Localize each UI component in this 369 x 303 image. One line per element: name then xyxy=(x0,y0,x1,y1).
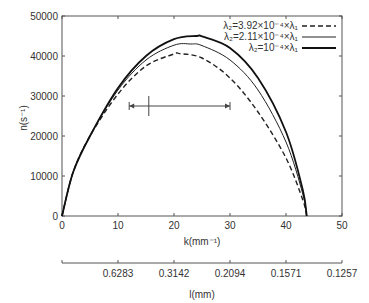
y-tick-label: 0 xyxy=(52,211,58,222)
curves xyxy=(62,35,307,216)
y-tick-label: 30000 xyxy=(30,91,58,102)
legend-entry-label: λ₂=2.11×10⁻⁴×λ₁ xyxy=(224,31,299,42)
secondary-x-tick-label: 0.2094 xyxy=(215,268,246,279)
secondary-x-tick-label: 0.1571 xyxy=(271,268,302,279)
secondary-x-tick-label: 0.1257 xyxy=(327,268,358,279)
legend-entry-label: λ₂=10⁻⁴×λ₁ xyxy=(249,42,299,53)
curve-solid-thick xyxy=(62,35,307,216)
chart: 01000020000300004000050000 01020304050 0… xyxy=(0,0,369,303)
curve-dashed xyxy=(62,53,307,216)
y-tick-label: 20000 xyxy=(30,131,58,142)
x-tick-label: 10 xyxy=(112,220,124,231)
x-tick-label: 20 xyxy=(168,220,180,231)
x-tick-label: 50 xyxy=(336,220,348,231)
x-tick-label: 30 xyxy=(224,220,236,231)
y-tick-label: 10000 xyxy=(30,171,58,182)
secondary-x-tick-label: 0.3142 xyxy=(159,268,190,279)
legend: λ₂=3.92×10⁻⁴×λ₁λ₂=2.11×10⁻⁴×λ₁λ₂=10⁻⁴×λ₁ xyxy=(223,20,336,53)
secondary-x-axis-label: l(mm) xyxy=(189,289,215,300)
y-tick-label: 40000 xyxy=(30,51,58,62)
legend-entry-label: λ₂=3.92×10⁻⁴×λ₁ xyxy=(223,20,298,31)
range-arrow-annotation xyxy=(129,96,230,116)
x-axis-label: k(mm⁻¹) xyxy=(184,236,221,247)
secondary-x-axis: 0.62830.31420.20940.15710.1257 xyxy=(62,260,358,279)
x-tick-label: 0 xyxy=(59,220,65,231)
x-tick-label: 40 xyxy=(280,220,292,231)
curve-solid-thin xyxy=(62,44,307,216)
secondary-x-tick-label: 0.6283 xyxy=(103,268,134,279)
y-axis-label: n(s⁻¹) xyxy=(18,105,29,131)
y-tick-label: 50000 xyxy=(30,11,58,22)
